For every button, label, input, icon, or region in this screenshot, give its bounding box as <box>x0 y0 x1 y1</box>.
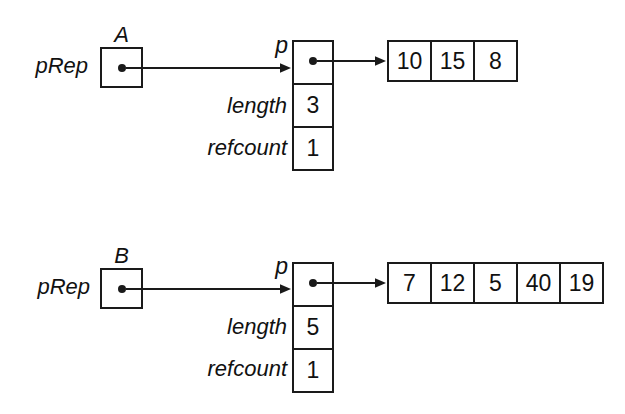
array-cell-b3: 40 <box>516 262 561 304</box>
object-label-b: B <box>100 243 143 269</box>
struct-cell-p-b <box>294 264 332 305</box>
arrowhead-icon <box>280 284 291 294</box>
struct-cell-refcount-b: 1 <box>294 348 332 391</box>
length-label-b: length <box>107 313 287 340</box>
array-cell-a2: 8 <box>473 40 518 82</box>
struct-node-a: 3 1 <box>292 40 334 171</box>
prep-pointer-box-b <box>100 268 143 309</box>
prep-pointer-box-a <box>100 47 143 88</box>
array-cell-b2: 5 <box>473 262 518 304</box>
array-cell-a1: 15 <box>430 40 475 82</box>
refcount-label-a: refcount <box>107 134 287 161</box>
array-node-b: 7 12 5 40 19 <box>387 262 604 304</box>
arrowhead-icon <box>375 56 386 66</box>
array-cell-b4: 19 <box>559 262 604 304</box>
array-cell-b1: 12 <box>430 262 475 304</box>
arrowhead-icon <box>280 63 291 73</box>
prep-label-b: pRep <box>0 273 90 300</box>
struct-cell-refcount-a: 1 <box>294 126 332 169</box>
p-field-label-b: p <box>208 253 288 280</box>
array-node-a: 10 15 8 <box>387 40 518 82</box>
refcount-label-b: refcount <box>107 355 287 382</box>
struct-node-b: 5 1 <box>292 262 334 393</box>
array-cell-a0: 10 <box>387 40 432 82</box>
length-label-a: length <box>107 92 287 119</box>
figure-canvas: A pRep p 3 1 length refcount 10 15 8 B p… <box>0 0 625 414</box>
struct-cell-p-a <box>294 42 332 83</box>
p-field-label-a: p <box>208 32 288 59</box>
struct-cell-length-b: 5 <box>294 305 332 348</box>
arrowhead-icon <box>375 278 386 288</box>
array-cell-b0: 7 <box>387 262 432 304</box>
prep-label-a: pRep <box>0 52 88 79</box>
struct-cell-length-a: 3 <box>294 83 332 126</box>
object-label-a: A <box>100 22 143 48</box>
